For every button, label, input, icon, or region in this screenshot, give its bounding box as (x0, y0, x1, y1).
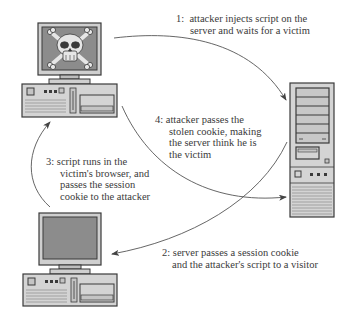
step-2-line-2: and the attacker's script to a visitor (162, 259, 318, 271)
caption-step-1: 1: attacker injects script on the server… (176, 13, 310, 36)
step-4-line-1: attacker passes the (166, 114, 244, 125)
caption-step-2: 2: server passes a session cookie and th… (162, 247, 318, 270)
caption-step-4: 4: attacker passes the stolen cookie, ma… (155, 114, 261, 160)
step-1-line-2: server and waits for a victim (176, 25, 310, 37)
attacker-computer (22, 23, 117, 117)
xss-diagram: 1: attacker injects script on the server… (0, 0, 352, 319)
step-2-number: 2: (162, 247, 170, 258)
step-4-line-3: the server think he is (155, 137, 261, 149)
step-3-number: 3: (46, 156, 54, 167)
step-3-line-4: cookie to the attacker (46, 191, 150, 203)
caption-step-3: 3: script runs in the victim's browser, … (46, 156, 150, 202)
step-2-line-1: server passes a session cookie (173, 247, 299, 258)
step-3-line-3: passes the session (46, 179, 150, 191)
victim-computer (23, 213, 117, 306)
arrow-step-1 (114, 36, 286, 100)
step-3-line-1: script runs in the (57, 156, 127, 167)
step-4-line-2: stolen cookie, making (155, 126, 261, 138)
step-4-line-4: the victim (155, 149, 261, 161)
step-4-number: 4: (155, 114, 163, 125)
step-1-line-1: attacker injects script on the (189, 13, 307, 24)
step-1-number: 1: (176, 13, 184, 24)
step-3-line-2: victim's browser, and (46, 168, 150, 180)
server-tower (290, 83, 334, 217)
